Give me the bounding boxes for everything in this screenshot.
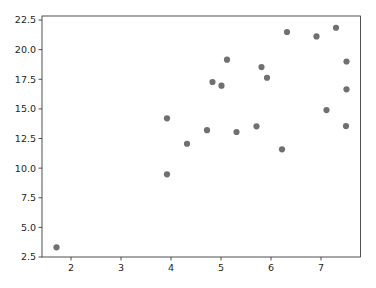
data-point xyxy=(264,75,270,81)
y-axis-ticks: 2.55.07.510.012.515.017.520.022.5 xyxy=(15,14,42,262)
data-points xyxy=(53,25,349,251)
data-point xyxy=(204,127,210,133)
y-tick-label: 20.0 xyxy=(15,44,36,55)
scatter-chart: 234567 2.55.07.510.012.515.017.520.022.5 xyxy=(0,0,376,288)
data-point xyxy=(313,33,319,39)
data-point xyxy=(284,29,290,35)
x-tick-label: 2 xyxy=(68,262,74,273)
data-point xyxy=(279,146,285,152)
data-point xyxy=(218,83,224,89)
x-tick-label: 4 xyxy=(168,262,174,273)
data-point xyxy=(233,129,239,135)
data-point xyxy=(164,115,170,121)
axes xyxy=(42,16,361,257)
data-point xyxy=(258,64,264,70)
y-tick-label: 5.0 xyxy=(21,222,36,233)
y-tick-label: 17.5 xyxy=(15,74,36,85)
data-point xyxy=(164,171,170,177)
data-point xyxy=(53,244,59,250)
data-point xyxy=(224,57,230,63)
data-point xyxy=(343,123,349,129)
y-tick-label: 10.0 xyxy=(15,163,36,174)
data-point xyxy=(343,86,349,92)
x-axis-ticks: 234567 xyxy=(68,257,324,273)
data-point xyxy=(209,79,215,85)
data-point xyxy=(253,123,259,129)
data-point xyxy=(323,107,329,113)
data-point xyxy=(343,58,349,64)
y-tick-label: 7.5 xyxy=(21,192,36,203)
y-tick-label: 2.5 xyxy=(21,251,36,262)
x-tick-label: 6 xyxy=(268,262,274,273)
data-point xyxy=(333,25,339,31)
y-tick-label: 22.5 xyxy=(15,14,36,25)
x-tick-label: 7 xyxy=(318,262,324,273)
data-point xyxy=(184,141,190,147)
y-tick-label: 12.5 xyxy=(15,133,36,144)
x-tick-label: 5 xyxy=(218,262,224,273)
plot-frame xyxy=(42,16,361,257)
chart-canvas: 234567 2.55.07.510.012.515.017.520.022.5 xyxy=(0,0,376,288)
y-tick-label: 15.0 xyxy=(15,103,36,114)
x-tick-label: 3 xyxy=(118,262,124,273)
